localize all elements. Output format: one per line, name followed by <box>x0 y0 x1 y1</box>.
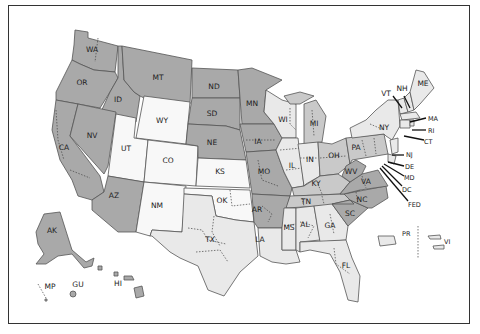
svg-text:PA: PA <box>351 143 361 152</box>
state-nm[interactable]: NM <box>136 182 186 236</box>
leader-ct <box>404 136 424 140</box>
svg-text:GA: GA <box>325 221 337 230</box>
state-ia[interactable]: IA <box>240 124 282 152</box>
svg-text:WY: WY <box>156 116 168 125</box>
label-me: ME <box>417 79 428 88</box>
svg-text:IL: IL <box>289 161 296 170</box>
state-ny[interactable]: NY <box>350 100 400 140</box>
state-gu[interactable]: GU <box>70 280 84 297</box>
label-ri: RI <box>428 127 435 135</box>
svg-text:TX: TX <box>204 235 215 244</box>
svg-text:HI: HI <box>114 279 122 288</box>
svg-text:WI: WI <box>278 115 288 124</box>
svg-text:AZ: AZ <box>109 191 119 200</box>
state-nd[interactable]: ND <box>192 68 240 98</box>
svg-text:WV: WV <box>345 167 358 176</box>
leader-de <box>388 162 404 166</box>
svg-text:FL: FL <box>342 261 351 270</box>
state-ak[interactable]: AK <box>36 212 94 268</box>
svg-text:CA: CA <box>59 143 70 152</box>
svg-text:TN: TN <box>300 197 311 206</box>
svg-text:MN: MN <box>246 99 258 108</box>
state-hi[interactable]: HI <box>98 266 144 298</box>
svg-text:NC: NC <box>357 195 368 204</box>
svg-text:UT: UT <box>121 144 131 153</box>
svg-text:CO: CO <box>162 156 173 165</box>
svg-text:KY: KY <box>311 179 321 188</box>
svg-text:NM: NM <box>151 201 163 210</box>
svg-text:MP: MP <box>45 282 56 291</box>
svg-text:WA: WA <box>86 45 99 54</box>
label-ma: MA <box>428 115 439 123</box>
state-co[interactable]: CO <box>144 140 198 186</box>
svg-text:PR: PR <box>402 230 411 238</box>
svg-text:NE: NE <box>207 138 218 147</box>
svg-text:MT: MT <box>152 73 163 82</box>
state-ks[interactable]: KS <box>196 158 250 188</box>
svg-text:NV: NV <box>87 131 99 140</box>
svg-text:OK: OK <box>217 196 229 205</box>
label-nj: NJ <box>406 151 413 159</box>
svg-text:ID: ID <box>114 95 122 104</box>
label-md: MD <box>404 174 415 182</box>
svg-text:KS: KS <box>215 167 225 176</box>
svg-text:MI: MI <box>310 119 319 128</box>
svg-text:LA: LA <box>255 235 265 244</box>
svg-text:OH: OH <box>328 151 340 160</box>
svg-text:GU: GU <box>72 280 83 289</box>
svg-text:MO: MO <box>258 167 270 176</box>
label-de: DE <box>405 163 414 171</box>
label-vt: VT <box>381 89 391 98</box>
label-fed: FED <box>408 201 421 209</box>
svg-text:IN: IN <box>306 155 314 164</box>
state-pr[interactable]: PR <box>378 226 418 258</box>
svg-text:AR: AR <box>252 205 262 214</box>
svg-text:VA: VA <box>361 177 372 186</box>
svg-text:AL: AL <box>300 220 310 229</box>
svg-text:AK: AK <box>47 226 58 235</box>
state-ms[interactable]: MS <box>282 208 296 250</box>
state-mp[interactable]: MP <box>38 282 56 301</box>
svg-text:IA: IA <box>254 137 262 146</box>
svg-text:SD: SD <box>207 109 218 118</box>
us-districts-map: WA OR CA ID NV MT WY UT AZ CO NM <box>0 0 480 334</box>
label-nh: NH <box>396 84 407 93</box>
svg-text:OR: OR <box>76 78 87 87</box>
svg-text:SC: SC <box>345 209 355 218</box>
svg-text:MS: MS <box>283 223 294 232</box>
state-vi[interactable]: VI <box>428 235 450 249</box>
svg-text:VI: VI <box>444 238 450 246</box>
svg-text:ND: ND <box>208 82 220 91</box>
state-fl[interactable]: FL <box>300 240 360 302</box>
label-dc: DC <box>402 186 412 194</box>
label-ct: CT <box>424 138 433 146</box>
state-wy[interactable]: WY <box>136 96 190 144</box>
svg-text:NY: NY <box>379 123 390 132</box>
state-pa[interactable]: PA <box>346 134 388 164</box>
